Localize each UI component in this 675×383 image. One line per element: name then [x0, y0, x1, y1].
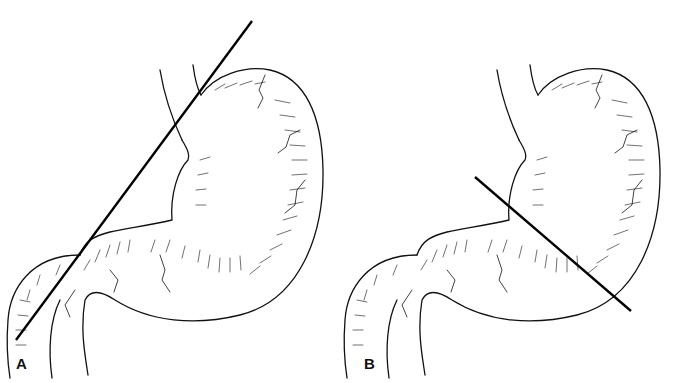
resection-line-b	[475, 177, 631, 311]
panel-label-a: A	[16, 355, 27, 372]
stomach-illustration-b	[337, 0, 675, 383]
panel-a: A	[0, 0, 337, 383]
stomach-illustration-a	[0, 0, 337, 383]
panel-label-b: B	[364, 355, 375, 372]
resection-line-a	[16, 21, 252, 340]
panel-b: B	[337, 0, 674, 383]
